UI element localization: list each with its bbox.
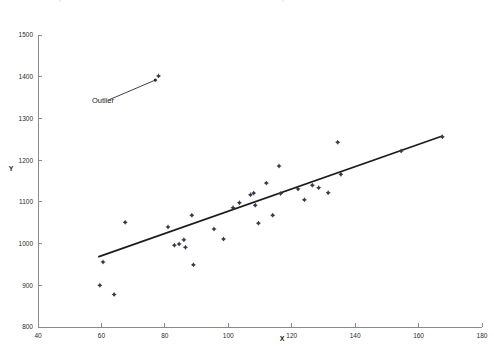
data-point bbox=[264, 181, 268, 185]
data-point bbox=[123, 220, 127, 224]
x-tick-label: 100 bbox=[223, 332, 234, 339]
tick-marks-layer bbox=[38, 35, 482, 327]
x-tick-label: 160 bbox=[413, 332, 424, 339]
data-point bbox=[172, 243, 176, 247]
data-point bbox=[98, 283, 102, 287]
data-point bbox=[156, 74, 160, 78]
y-tick-label: 1000 bbox=[19, 240, 34, 247]
data-point bbox=[270, 213, 274, 217]
data-point bbox=[336, 140, 340, 144]
data-point bbox=[277, 164, 281, 168]
data-point-tick-v bbox=[179, 242, 180, 246]
regression-line bbox=[98, 136, 442, 257]
data-point bbox=[310, 183, 314, 187]
data-point bbox=[302, 198, 306, 202]
data-point-tick-v bbox=[125, 220, 126, 224]
data-point-tick-v bbox=[103, 260, 104, 264]
data-point-tick-v bbox=[279, 164, 280, 168]
data-point-tick-v bbox=[337, 140, 338, 144]
y-tick-label: 1200 bbox=[19, 157, 34, 164]
cropped-text-fragment: ▫ bbox=[59, 0, 61, 4]
data-point bbox=[326, 190, 330, 194]
data-point bbox=[316, 185, 320, 189]
tick-labels-layer: 4060801001201401601808009001000110012001… bbox=[19, 31, 488, 339]
data-point-tick-v bbox=[191, 213, 192, 217]
y-axis-title: Y bbox=[9, 165, 14, 172]
annotation-arrow-head bbox=[154, 78, 157, 81]
data-point-tick-v bbox=[401, 149, 402, 153]
annotation-label-outlier: Outlier bbox=[92, 96, 115, 105]
data-point-tick-v bbox=[223, 237, 224, 241]
scatter-plot-figure: ▫▫ 4060801001201401601808009001000110012… bbox=[0, 0, 494, 349]
data-point-tick-v bbox=[174, 243, 175, 247]
annotation-leader-line bbox=[109, 80, 155, 100]
data-point-tick-v bbox=[114, 292, 115, 296]
data-point-tick-v bbox=[298, 187, 299, 191]
data-point-tick-v bbox=[239, 200, 240, 204]
data-point bbox=[440, 135, 444, 139]
data-point-tick-v bbox=[340, 172, 341, 176]
data-point-tick-v bbox=[183, 238, 184, 242]
data-point bbox=[190, 213, 194, 217]
data-point bbox=[253, 203, 257, 207]
axis-titles-layer: XY bbox=[9, 165, 285, 342]
x-tick-label: 120 bbox=[286, 332, 297, 339]
data-point bbox=[183, 245, 187, 249]
data-point-tick-v bbox=[280, 191, 281, 195]
data-point bbox=[212, 227, 216, 231]
data-points-layer bbox=[98, 74, 445, 297]
data-point bbox=[177, 242, 181, 246]
data-point-tick-v bbox=[99, 283, 100, 287]
data-point-tick-v bbox=[158, 74, 159, 78]
data-point-tick-v bbox=[272, 213, 273, 217]
y-tick-label: 800 bbox=[22, 323, 33, 330]
data-point bbox=[237, 200, 241, 204]
data-point bbox=[221, 237, 225, 241]
x-tick-label: 140 bbox=[350, 332, 361, 339]
y-tick-label: 1300 bbox=[19, 115, 34, 122]
data-point bbox=[112, 292, 116, 296]
data-point-tick-v bbox=[193, 263, 194, 267]
data-point-tick-v bbox=[185, 245, 186, 249]
annotations-layer: Outlier bbox=[92, 78, 157, 105]
cropped-header-text: ▫▫ bbox=[59, 0, 284, 4]
y-tick-label: 1500 bbox=[19, 31, 34, 38]
data-point-tick-v bbox=[233, 205, 234, 209]
y-tick-label: 900 bbox=[22, 282, 33, 289]
data-point bbox=[166, 225, 170, 229]
x-tick-label: 40 bbox=[34, 332, 42, 339]
data-point bbox=[182, 238, 186, 242]
data-point-tick-v bbox=[253, 191, 254, 195]
axes-layer bbox=[38, 35, 482, 328]
data-point bbox=[256, 221, 260, 225]
y-tick-label: 1400 bbox=[19, 73, 34, 80]
data-point-tick-v bbox=[250, 193, 251, 197]
x-tick-label: 180 bbox=[477, 332, 488, 339]
data-point bbox=[101, 260, 105, 264]
data-point-tick-v bbox=[168, 225, 169, 229]
data-point bbox=[191, 263, 195, 267]
y-tick-label: 1100 bbox=[19, 198, 33, 205]
cropped-text-fragment: ▫ bbox=[282, 0, 284, 4]
data-point-tick-v bbox=[312, 183, 313, 187]
data-point-tick-v bbox=[328, 190, 329, 194]
x-axis-title: X bbox=[280, 335, 285, 342]
x-tick-label: 60 bbox=[98, 332, 106, 339]
data-point-tick-v bbox=[255, 203, 256, 207]
regression-line-layer bbox=[98, 136, 442, 257]
data-point-tick-v bbox=[214, 227, 215, 231]
plot-canvas: ▫▫ 4060801001201401601808009001000110012… bbox=[0, 0, 494, 349]
data-point-tick-v bbox=[304, 198, 305, 202]
data-point-tick-v bbox=[442, 135, 443, 139]
data-point-tick-v bbox=[258, 221, 259, 225]
data-point-tick-v bbox=[318, 185, 319, 189]
data-point-tick-v bbox=[266, 181, 267, 185]
x-tick-label: 80 bbox=[161, 332, 169, 339]
